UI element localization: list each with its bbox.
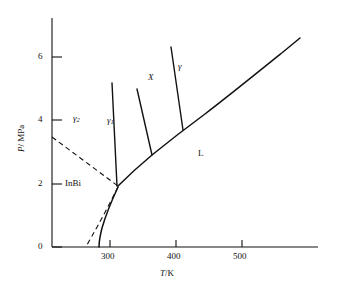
y-tick-marks bbox=[52, 57, 62, 247]
y-axis-title-units: / MPa bbox=[16, 125, 26, 147]
x-tick-label-300: 300 bbox=[101, 251, 115, 261]
region-label-X: X bbox=[148, 72, 154, 82]
x-axis-title: T/K bbox=[160, 268, 174, 278]
y-tick-label-2: 2 bbox=[38, 178, 43, 188]
liquidus-curve bbox=[118, 38, 300, 186]
x-axis-title-units: /K bbox=[165, 268, 174, 278]
x-tick-label-500: 500 bbox=[233, 251, 247, 261]
region-label-gamma: γ bbox=[178, 61, 182, 71]
inbi-melting-curve bbox=[99, 187, 118, 247]
region-label-inbi: InBi bbox=[65, 178, 81, 188]
x-tick-marks bbox=[110, 240, 242, 247]
region-label-liquid: L bbox=[198, 148, 204, 158]
x-gamma-boundary bbox=[171, 47, 183, 130]
phase-diagram-figure: 6 4 2 0 300 400 500 P/ MPa T/K γ2 γ1 X γ… bbox=[0, 0, 339, 297]
x-tick-label-400: 400 bbox=[167, 251, 181, 261]
region-label-gamma1: γ1 bbox=[107, 115, 114, 125]
metastable-dashed-curve bbox=[86, 187, 118, 247]
y-axis-title: P/ MPa bbox=[16, 125, 26, 152]
gamma2-subscript: 2 bbox=[77, 116, 80, 123]
inbi-gamma2-dashed-boundary bbox=[52, 137, 118, 186]
region-label-gamma2: γ2 bbox=[73, 113, 80, 123]
y-tick-label-4: 4 bbox=[38, 114, 43, 124]
y-tick-label-0: 0 bbox=[38, 241, 43, 251]
y-axis-title-symbol: P bbox=[16, 147, 26, 153]
gamma1-x-boundary bbox=[137, 89, 152, 155]
gamma1-subscript: 1 bbox=[111, 118, 114, 125]
y-tick-label-6: 6 bbox=[38, 51, 43, 61]
gamma2-gamma1-boundary bbox=[112, 83, 117, 186]
